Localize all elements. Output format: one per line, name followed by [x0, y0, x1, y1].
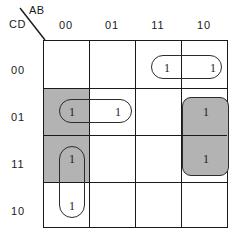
grid-line-h2 [44, 135, 227, 136]
grid-line-v1 [89, 41, 90, 227]
group-mid-left [59, 99, 132, 123]
kmap-grid: 1 1 1 1 1 1 1 1 [43, 40, 228, 228]
shade-group-col10-rows01-11 [182, 97, 229, 176]
group-top-right [151, 55, 222, 79]
row-header-00: 00 [0, 64, 38, 76]
col-header-01: 01 [89, 19, 135, 31]
row-header-11: 11 [0, 158, 38, 170]
row-header-01: 01 [0, 111, 38, 123]
grid-line-v2 [135, 41, 136, 227]
col-header-11: 11 [135, 19, 181, 31]
group-lower-left [59, 146, 85, 218]
col-header-10: 10 [181, 19, 227, 31]
row-header-10: 10 [0, 205, 38, 217]
grid-line-h1 [44, 88, 227, 89]
karnaugh-map: AB CD 00 01 11 10 00 01 11 10 1 1 1 1 1 … [0, 0, 243, 243]
col-header-00: 00 [43, 19, 89, 31]
